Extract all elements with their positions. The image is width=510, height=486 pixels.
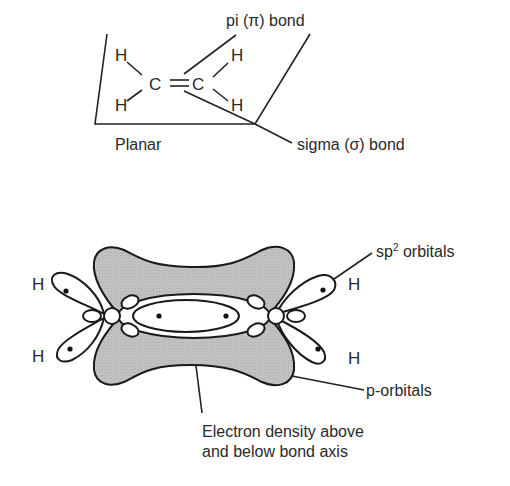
orbital-diagram: H H H H sp2 orbitals p-orbitals Electron… bbox=[32, 242, 455, 460]
atom-h1: H bbox=[115, 46, 127, 65]
sigma-bond-inner bbox=[133, 300, 239, 332]
planar-structure: H H C C H H pi (π) bond sigma (σ) bond P… bbox=[95, 12, 405, 153]
pi-bond-leader bbox=[184, 35, 236, 74]
carbon-nucleus-right bbox=[268, 308, 284, 324]
atom-h-right-top: H bbox=[348, 275, 360, 294]
electron-dot bbox=[320, 287, 325, 292]
atom-h2: H bbox=[115, 96, 127, 115]
electron-density-label-line2: and below bond axis bbox=[202, 443, 348, 460]
atom-h-left-bottom: H bbox=[32, 347, 44, 366]
carbon-nucleus-left bbox=[104, 308, 120, 324]
small-lobe bbox=[287, 310, 305, 322]
p-orbitals-label: p-orbitals bbox=[366, 382, 432, 399]
atom-c2: C bbox=[192, 75, 204, 94]
atom-h3: H bbox=[231, 46, 243, 65]
atom-h4: H bbox=[231, 96, 243, 115]
electron-dot bbox=[67, 346, 72, 351]
electron-dot bbox=[223, 313, 228, 318]
electron-density-leader bbox=[196, 366, 202, 413]
atom-c1: C bbox=[149, 75, 161, 94]
electron-dot bbox=[156, 313, 161, 318]
pi-bond-label: pi (π) bond bbox=[226, 12, 305, 29]
atom-h-left-top: H bbox=[32, 275, 44, 294]
bond-h1-c1 bbox=[127, 62, 142, 75]
p-orbitals-leader bbox=[292, 376, 364, 390]
planar-label: Planar bbox=[115, 136, 162, 153]
bond-c2-h4 bbox=[213, 89, 228, 101]
electron-density-label-line1: Electron density above bbox=[202, 423, 364, 440]
bond-c2-h3 bbox=[213, 63, 228, 77]
small-lobe bbox=[83, 310, 101, 322]
sp2-orbitals-label: sp2 orbitals bbox=[376, 242, 455, 260]
bond-h2-c1 bbox=[127, 90, 142, 101]
sigma-bond-label: sigma (σ) bond bbox=[297, 136, 405, 153]
atom-h-right-bottom: H bbox=[348, 349, 360, 368]
electron-dot bbox=[63, 288, 68, 293]
electron-dot bbox=[315, 346, 320, 351]
ethylene-bonding-diagram: H H C C H H pi (π) bond sigma (σ) bond P… bbox=[0, 0, 510, 486]
